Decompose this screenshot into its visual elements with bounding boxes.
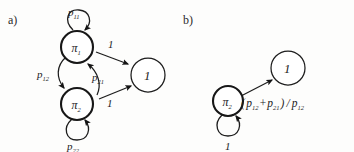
markov-chain-diagram: π1 π2 1 p11 p12 p21 1 1 p22 (0, 0, 354, 152)
edge-self-loop-pi2 (66, 119, 88, 140)
edge-label-p12: p12 (36, 68, 50, 82)
node-one-b-label: 1 (284, 61, 291, 76)
figure-container: a) b) (0, 0, 354, 152)
edge-label-p11: p11 (67, 6, 80, 20)
edge-label-p22: p22 (66, 140, 80, 152)
node-pi1[interactable]: π1 (61, 31, 93, 63)
node-one-a[interactable]: 1 (131, 58, 165, 92)
edge-label-one-bottom: 1 (107, 97, 113, 109)
edge-pi2-to-one-b (241, 80, 272, 96)
edge-label-one-top: 1 (108, 38, 114, 50)
edge-label-expression-b: (p12+p21)/p12 (241, 97, 305, 111)
edge-pi1-to-pi2 (58, 57, 66, 88)
node-pi2-b[interactable]: π2 (213, 86, 243, 116)
node-one-a-label: 1 (144, 68, 151, 83)
node-pi2[interactable]: π2 (61, 88, 93, 120)
edge-pi2-to-one (99, 86, 131, 99)
edge-label-self-loop-b: 1 (225, 140, 231, 152)
node-one-b[interactable]: 1 (271, 51, 305, 85)
edge-pi1-to-one (96, 52, 128, 64)
edge-self-loop-pi2-b (217, 115, 239, 136)
edge-label-p21: p21 (91, 71, 104, 85)
